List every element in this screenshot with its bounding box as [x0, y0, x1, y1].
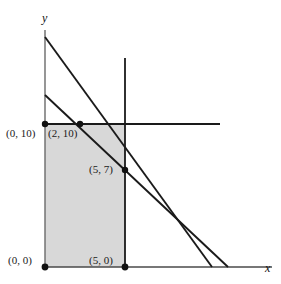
point-label-0-0: (0, 0) [8, 255, 32, 266]
point-marker-2-10 [77, 121, 83, 127]
point-label-5-7: (5, 7) [89, 164, 113, 175]
point-label-0-10: (0, 10) [6, 128, 35, 139]
x-axis-label: x [265, 262, 270, 274]
point-label-2-10: (2, 10) [48, 128, 77, 139]
feasible-region-figure: (0, 10) (2, 10) (5, 7) (0, 0) (5, 0) y x [0, 0, 281, 284]
plot-canvas [0, 0, 281, 284]
point-marker-5-7 [122, 167, 128, 173]
point-label-5-0: (5, 0) [89, 255, 113, 266]
point-marker-0-0 [42, 264, 49, 271]
y-axis-label: y [42, 12, 47, 24]
feasible-region-shading [45, 124, 125, 267]
point-marker-5-0 [122, 264, 129, 271]
